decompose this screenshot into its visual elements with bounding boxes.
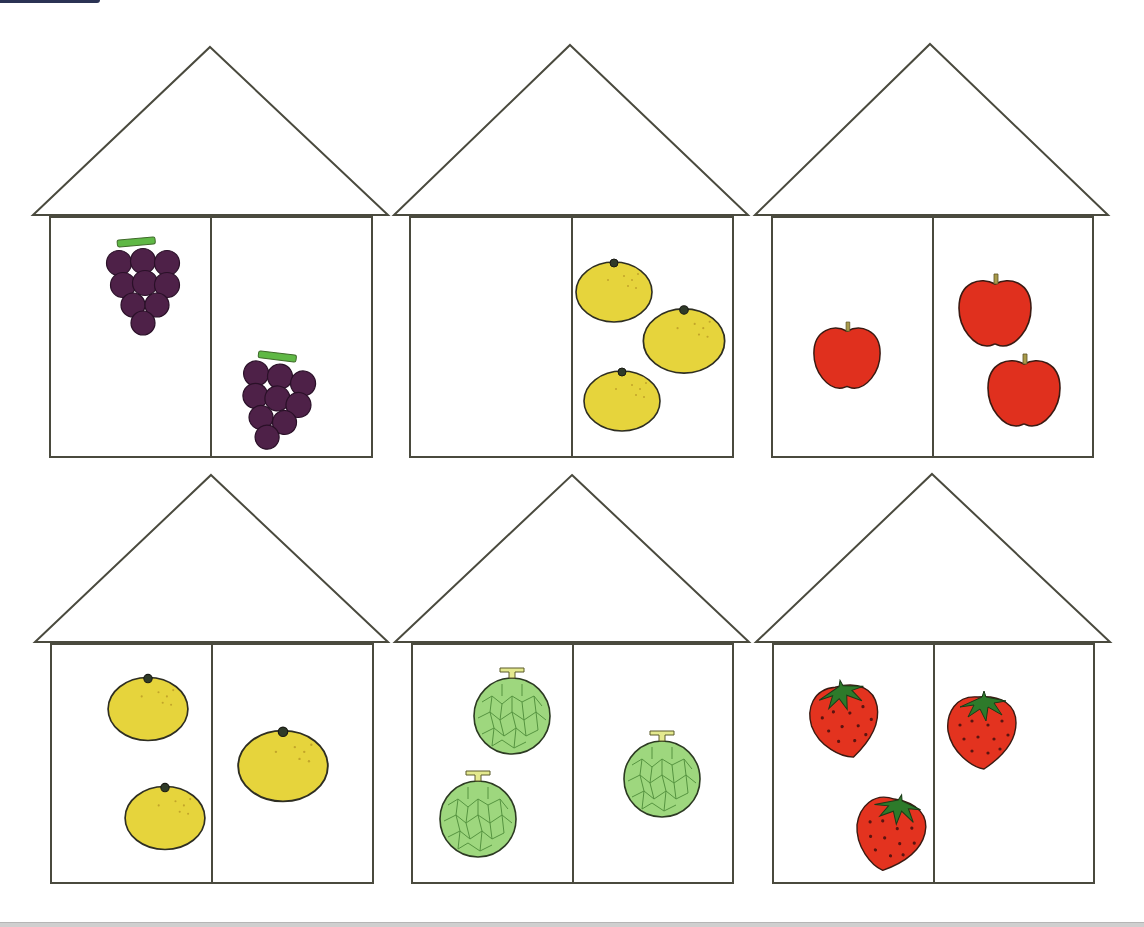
house-roof xyxy=(756,474,1110,642)
house-3 xyxy=(755,44,1108,457)
bottom-edge-bar xyxy=(0,922,1144,927)
house-roof xyxy=(394,45,748,215)
house-6 xyxy=(756,474,1110,883)
houses-layer xyxy=(33,44,1110,883)
right-room[interactable] xyxy=(934,644,1094,883)
apple-icon xyxy=(959,274,1031,346)
fruit-house-worksheet xyxy=(0,0,1144,927)
house-4 xyxy=(35,475,388,883)
house-roof xyxy=(755,44,1108,215)
house-roof xyxy=(395,475,749,642)
house-roof xyxy=(35,475,388,642)
left-room[interactable] xyxy=(410,217,572,457)
apple-icon xyxy=(988,354,1060,426)
house-2 xyxy=(394,45,748,457)
houses-canvas xyxy=(0,0,1144,927)
left-room[interactable] xyxy=(50,217,211,457)
apple-icon xyxy=(814,322,880,388)
house-5 xyxy=(395,475,749,883)
house-1 xyxy=(33,47,388,457)
house-roof xyxy=(33,47,388,215)
